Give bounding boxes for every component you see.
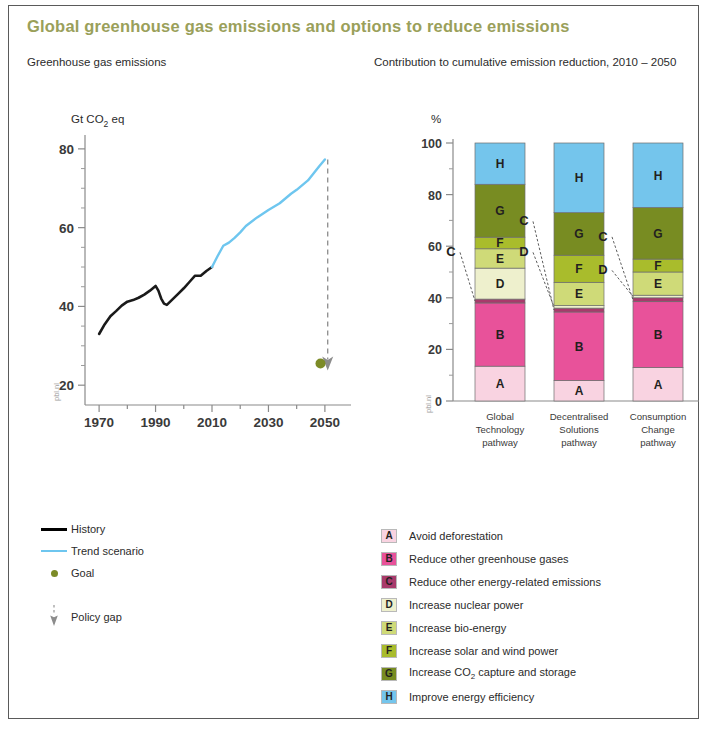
legend-label-f: Increase solar and wind power — [409, 645, 558, 657]
line-chart-y-axis-unit: Gt CO2 eq — [71, 113, 124, 129]
line-chart-svg: 2040608019701990201020302050 Gt CO2 eq p… — [19, 101, 369, 456]
line-chart-y-tick-label: 40 — [59, 299, 74, 314]
legend-label-g: Increase CO2 capture and storage — [409, 666, 576, 681]
legend-label-d: Increase nuclear power — [409, 599, 523, 611]
bar-segment-C — [633, 298, 683, 302]
callout-label-C: C — [598, 229, 608, 244]
bar-segment-letter-H: H — [496, 157, 505, 171]
legend-item-policy-gap: Policy gap — [37, 606, 337, 628]
figure-title: Global greenhouse gas emissions and opti… — [27, 17, 570, 36]
bar-chart-y-tick-label: 100 — [421, 137, 442, 151]
bar-segment-letter-D: D — [496, 277, 505, 291]
bar-segment-C — [554, 308, 604, 312]
y-unit-tail: eq — [108, 113, 124, 125]
legend-item-a: AAvoid deforestation — [381, 524, 701, 547]
line-chart-series — [99, 160, 325, 334]
line-chart-axes: 2040608019701990201020302050 — [59, 135, 351, 430]
bar-category-label: Change — [641, 424, 675, 435]
bar-chart-category-labels: GlobalTechnologypathwayDecentralisedSolu… — [476, 411, 687, 448]
y-unit-main: Gt CO — [71, 113, 104, 125]
line-chart-x-tick-label: 2030 — [253, 415, 283, 430]
legend-label-c: Reduce other energy-related emissions — [409, 576, 601, 588]
callout-label-C: C — [446, 244, 456, 259]
legend-swatch-h-icon: H — [381, 690, 409, 704]
bar-segment-letter-A: A — [575, 384, 584, 398]
legend-key-letter-h: H — [381, 690, 397, 704]
legend-swatch-c-icon: C — [381, 575, 409, 589]
bar-segment-letter-H: H — [654, 169, 663, 183]
legend-item-history: History — [37, 518, 337, 540]
bar-chart-y-tick-label: 0 — [435, 395, 442, 409]
line-chart-x-tick-label: 1970 — [84, 415, 114, 430]
history-line-icon — [37, 528, 71, 531]
bar-segment-letter-A: A — [496, 377, 505, 391]
callout-leader-C — [533, 221, 554, 310]
legend-item-trend-scenario: Trend scenario — [37, 540, 337, 562]
bar-segment-C — [475, 299, 525, 303]
bar-segment-D — [633, 295, 683, 298]
callout-label-D: D — [598, 262, 607, 277]
bar-category-label: Technology — [476, 424, 525, 435]
bar-segment-letter-G: G — [495, 204, 504, 218]
right-panel-subtitle: Contribution to cumulative emission redu… — [374, 55, 704, 70]
legend-key-letter-a: A — [381, 529, 397, 543]
legend-label-h: Improve energy efficiency — [409, 691, 534, 703]
legend-key-letter-c: C — [381, 575, 397, 589]
right-legend: AAvoid deforestationBReduce other greenh… — [381, 524, 701, 708]
legend-swatch-e-icon: E — [381, 621, 409, 635]
bar-category-label: Solutions — [559, 424, 599, 435]
line-chart-y-tick-label: 20 — [59, 378, 74, 393]
left-panel-subtitle: Greenhouse gas emissions — [27, 55, 166, 70]
bar-segment-letter-B: B — [496, 328, 505, 342]
legend-label-b: Reduce other greenhouse gases — [409, 553, 569, 565]
bar-chart-callouts: CCDCD — [446, 213, 633, 310]
callout-leader-D — [533, 252, 554, 306]
legend-label-a: Avoid deforestation — [409, 530, 503, 542]
legend-label-e: Increase bio-energy — [409, 622, 506, 634]
legend-key-letter-e: E — [381, 621, 397, 635]
emissions-line-chart: 2040608019701990201020302050 Gt CO2 eq p… — [19, 101, 369, 456]
legend-item-c: CReduce other energy-related emissions — [381, 570, 701, 593]
callout-leader-D — [612, 270, 633, 296]
watermark-left: pbl.nl — [52, 383, 61, 401]
line-chart-x-tick-label: 1990 — [141, 415, 171, 430]
bar-chart-y-tick-label: 40 — [428, 292, 442, 306]
watermark-right: pbl.nl — [424, 395, 433, 413]
bar-category-label: pathway — [482, 437, 518, 448]
left-legend: History Trend scenario Goal Policy gap — [37, 518, 337, 628]
bar-chart-y-tick-label: 20 — [428, 343, 442, 357]
legend-label-trend-scenario: Trend scenario — [71, 545, 144, 557]
bar-category-label: Global — [486, 411, 514, 422]
bar-segment-letter-E: E — [575, 287, 583, 301]
bar-chart-y-tick-label: 60 — [428, 240, 442, 254]
legend-key-letter-g: G — [381, 667, 397, 681]
callout-label-C: C — [519, 213, 529, 228]
line-chart-x-tick-label: 2010 — [197, 415, 227, 430]
bar-segment-letter-H: H — [575, 171, 584, 185]
bar-segment-letter-G: G — [653, 227, 662, 241]
bar-category-label: pathway — [640, 437, 676, 448]
legend-item-d: DIncrease nuclear power — [381, 593, 701, 616]
bar-chart-stacks: ABDEFGHABEFGHABEFGH — [475, 143, 683, 401]
legend-item-g: GIncrease CO2 capture and storage — [381, 662, 701, 685]
bar-category-label: Decentralised — [550, 411, 609, 422]
goal-dot-icon — [37, 570, 71, 577]
bar-category-label: pathway — [561, 437, 597, 448]
legend-label-goal: Goal — [71, 567, 94, 579]
legend-item-h: HImprove energy efficiency — [381, 685, 701, 708]
legend-swatch-b-icon: B — [381, 552, 409, 566]
bar-segment-letter-E: E — [654, 277, 662, 291]
bar-segment-letter-F: F — [654, 259, 661, 273]
legend-label-policy-gap: Policy gap — [71, 611, 122, 623]
legend-item-f: FIncrease solar and wind power — [381, 639, 701, 662]
legend-item-goal: Goal — [37, 562, 337, 584]
bar-segment-letter-B: B — [575, 340, 584, 354]
bar-segment-letter-G: G — [574, 227, 583, 241]
bar-category-label: Consumption — [630, 411, 687, 422]
legend-key-letter-f: F — [381, 644, 397, 658]
bar-segment-letter-F: F — [496, 236, 503, 250]
callout-leader-C — [612, 237, 633, 300]
bar-segment-letter-A: A — [654, 378, 663, 392]
line-chart-x-tick-label: 2050 — [310, 415, 340, 430]
line-chart-y-tick-label: 60 — [59, 221, 74, 236]
